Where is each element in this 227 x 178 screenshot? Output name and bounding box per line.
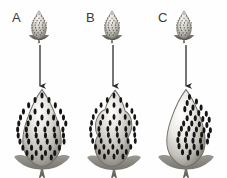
seed: [183, 13, 184, 15]
seed: [176, 137, 179, 143]
seed: [58, 145, 61, 151]
seed: [191, 22, 192, 24]
seed: [124, 126, 127, 132]
panel-label-c: C: [158, 10, 167, 25]
seed: [111, 24, 112, 26]
seed: [34, 127, 37, 133]
seed: [118, 138, 121, 144]
seed: [115, 24, 116, 26]
seed: [109, 120, 112, 126]
seed: [107, 132, 110, 138]
seed: [196, 150, 199, 156]
seed: [31, 24, 32, 26]
seed: [180, 27, 181, 29]
panel-label-a: A: [12, 10, 21, 25]
seed: [106, 20, 107, 22]
seed: [115, 27, 116, 29]
seed: [43, 29, 44, 31]
panel-b: B: [86, 10, 141, 178]
seed: [42, 27, 43, 29]
seed: [208, 117, 211, 123]
seed: [44, 133, 47, 139]
seed: [191, 27, 192, 29]
seed: [194, 115, 197, 121]
seed: [46, 27, 47, 29]
seed: [35, 27, 36, 29]
seed: [64, 120, 67, 126]
seed: [39, 145, 42, 151]
seed: [53, 133, 56, 139]
seed: [38, 32, 39, 34]
seed: [25, 127, 28, 133]
seed: [21, 145, 24, 151]
seed: [104, 24, 105, 26]
small-strawberry-b: [102, 11, 122, 44]
seed: [106, 97, 109, 103]
seed: [113, 34, 114, 36]
seed: [22, 108, 25, 114]
seed: [43, 22, 44, 24]
seed: [113, 29, 114, 31]
seed: [111, 144, 114, 150]
seed: [30, 145, 33, 151]
seed: [40, 93, 43, 99]
seed: [184, 27, 185, 29]
small-strawberry-a: [29, 11, 49, 44]
seed: [35, 150, 38, 156]
seed: [187, 27, 188, 29]
seed: [90, 120, 93, 126]
seed: [43, 17, 44, 19]
seed: [190, 24, 191, 26]
seed: [109, 34, 110, 36]
seed: [195, 127, 198, 133]
seed: [134, 138, 137, 144]
seed: [34, 97, 37, 103]
seed: [56, 120, 59, 126]
seed: [111, 17, 112, 19]
panel-label-b: B: [86, 10, 95, 25]
seed: [35, 133, 38, 139]
seed: [103, 154, 106, 160]
seed: [201, 116, 204, 122]
seed: [32, 29, 33, 31]
seed: [122, 154, 125, 160]
panel-c: C: [158, 10, 214, 178]
seed: [181, 29, 182, 31]
seed: [125, 102, 128, 108]
seed: [200, 132, 203, 138]
seed: [62, 114, 65, 120]
seed: [47, 108, 50, 114]
seed: [189, 20, 190, 22]
seed: [113, 92, 116, 98]
large-berry-body-c: [167, 90, 205, 167]
seed: [178, 131, 181, 137]
seed: [52, 114, 55, 120]
seed: [27, 102, 30, 108]
seed: [35, 24, 36, 26]
strawberry-comparison-figure: A B: [0, 0, 227, 178]
seed: [108, 27, 109, 29]
seed: [36, 15, 37, 17]
seed: [118, 24, 119, 26]
seed: [116, 29, 117, 31]
seed: [43, 127, 46, 133]
seed: [111, 13, 112, 15]
seed: [179, 17, 180, 19]
seed: [198, 121, 201, 127]
seed: [40, 34, 41, 36]
seed: [62, 133, 65, 139]
seed: [205, 111, 208, 117]
seed: [133, 132, 136, 138]
seed: [188, 17, 189, 19]
seed: [91, 138, 94, 144]
seed: [111, 32, 112, 34]
seed: [183, 17, 184, 19]
seed: [90, 132, 93, 138]
seed: [181, 34, 182, 36]
seed: [116, 132, 119, 138]
seed: [100, 138, 103, 144]
seed: [106, 108, 109, 114]
seed: [97, 126, 100, 132]
seed: [106, 126, 109, 132]
seed: [40, 29, 41, 31]
